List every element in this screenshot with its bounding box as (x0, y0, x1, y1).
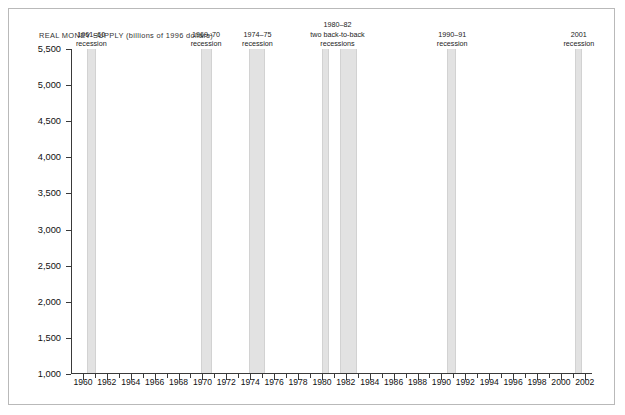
y-axis-labels: 5,5005,0004,5004,0003,5003,0002,5002,000… (9, 49, 61, 374)
x-axis-label: 1978 (288, 377, 307, 387)
recession-1980-82 (322, 49, 329, 374)
y-axis-tick (66, 85, 71, 86)
recession-1969-70-caption: 1969–70recession (191, 30, 222, 48)
y-axis-line (71, 49, 72, 374)
y-axis-tick (66, 121, 71, 122)
recession-1974-75-caption: 1974–75recession (242, 30, 273, 48)
chart-frame: REAL MONEY SUPPLY (billions of 1996 doll… (8, 8, 615, 405)
x-axis-label: 1982 (336, 377, 355, 387)
recession-2001-caption: 2001recession (563, 30, 594, 48)
x-axis-label: 1992 (456, 377, 475, 387)
recession-1960-61 (87, 49, 97, 374)
x-axis-label: 1972 (217, 377, 236, 387)
y-axis-tick (66, 338, 71, 339)
y-axis-tick (66, 230, 71, 231)
recession-1981-82-second (340, 49, 357, 374)
x-axis-label: 1984 (360, 377, 379, 387)
recession-1974-75 (249, 49, 265, 374)
y-axis-label: 1,500 (15, 333, 61, 343)
x-axis-label: 1988 (408, 377, 427, 387)
x-axis-label: 1998 (527, 377, 546, 387)
x-axis-labels: 1960196219641966196819701972197419761978… (71, 377, 592, 393)
x-axis-label: 1994 (480, 377, 499, 387)
x-axis-label: 1986 (384, 377, 403, 387)
y-axis-label: 5,500 (15, 44, 61, 54)
x-axis-label: 1990 (432, 377, 451, 387)
y-axis-tick (66, 193, 71, 194)
y-axis-label: 3,000 (15, 225, 61, 235)
x-axis-label: 1966 (145, 377, 164, 387)
recession-captions: 1961–60recession1969–70recession1974–75r… (71, 9, 592, 49)
x-axis-label: 1970 (193, 377, 212, 387)
recession-1969-70 (201, 49, 212, 374)
x-axis-label: 1976 (265, 377, 284, 387)
plot-background (71, 49, 592, 374)
recession-1990-91 (447, 49, 455, 374)
y-axis-label: 4,000 (15, 152, 61, 162)
y-axis-tick (66, 302, 71, 303)
x-axis-label: 1974 (241, 377, 260, 387)
y-axis-label: 5,000 (15, 80, 61, 90)
y-axis-tick (66, 266, 71, 267)
y-axis-label: 3,500 (15, 188, 61, 198)
x-axis-label: 1996 (504, 377, 523, 387)
x-axis-label: 1980 (312, 377, 331, 387)
recession-1980-82-caption: 1980–82two back-to-backrecessions (310, 20, 364, 48)
y-axis-tick (66, 157, 71, 158)
x-axis-label: 1964 (121, 377, 140, 387)
y-axis-label: 2,500 (15, 261, 61, 271)
recession-1990-91-caption: 1990–91recession (437, 30, 468, 48)
y-axis-tick (66, 374, 71, 375)
plot-area (71, 49, 592, 374)
y-axis-label: 2,000 (15, 297, 61, 307)
x-axis-label: 1968 (169, 377, 188, 387)
x-axis-label: 1960 (73, 377, 92, 387)
y-axis-label: 4,500 (15, 116, 61, 126)
recession-1960-61-caption: 1961–60recession (76, 30, 107, 48)
recession-2001 (575, 49, 582, 374)
x-axis-label: 1962 (97, 377, 116, 387)
x-axis-label: 2002 (575, 377, 594, 387)
y-axis-tick (66, 49, 71, 50)
y-axis-label: 1,000 (15, 369, 61, 379)
x-axis-label: 2000 (551, 377, 570, 387)
